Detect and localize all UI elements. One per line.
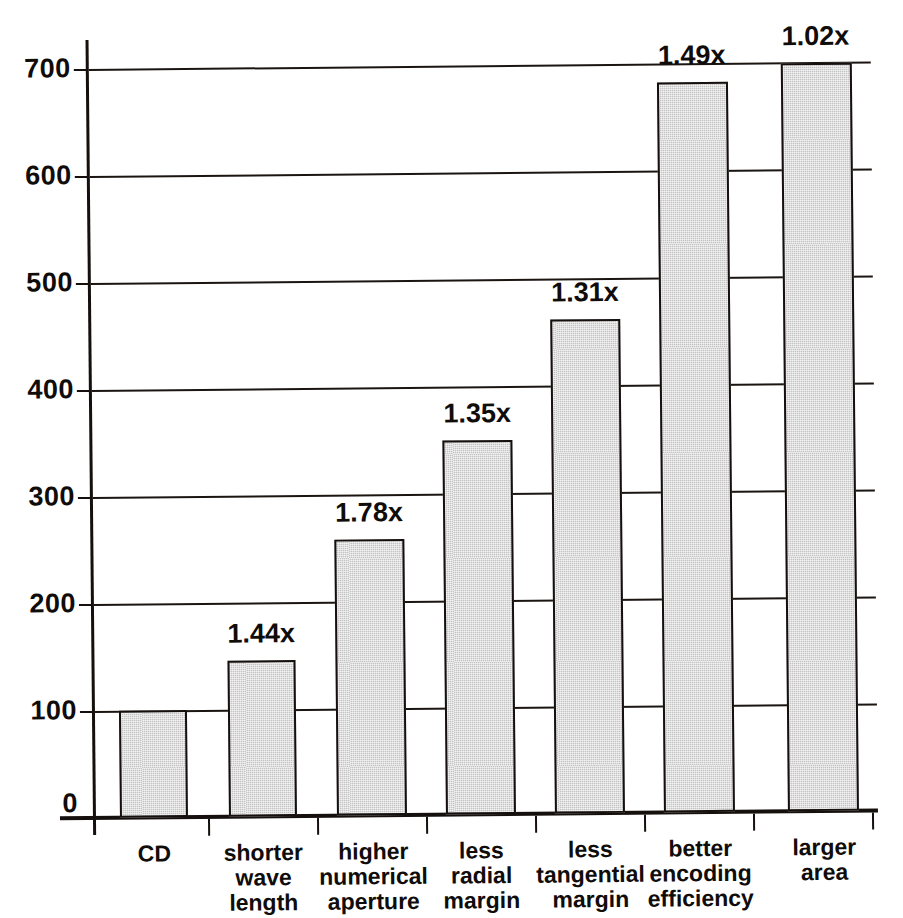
y-tick-400 — [77, 390, 91, 392]
bar-value-less-radial-margin: 1.35x — [408, 400, 546, 428]
plot-area: 700 600 500 400 300 200 100 0 1. — [0, 0, 903, 909]
x-axis-label-higher-numerical-aperture-line-2: numerical — [316, 864, 430, 890]
bar-less-radial-margin[interactable] — [442, 440, 516, 815]
y-axis-label-100: 100 — [3, 697, 77, 725]
gridline-600 — [90, 168, 872, 178]
y-axis-label-0: 0 — [4, 790, 78, 818]
x-axis-label-cd-line-1: CD — [104, 841, 204, 867]
x-axis-label-less-radial-margin: less radial margin — [433, 838, 530, 913]
x-tick-3 — [426, 817, 428, 834]
y-tick-300 — [78, 497, 92, 499]
x-tick-2 — [317, 818, 319, 835]
y-tick-200 — [79, 604, 93, 606]
y-tick-100 — [80, 711, 94, 713]
y-tick-600 — [75, 176, 89, 178]
x-axis-label-cd: CD — [104, 841, 204, 867]
x-tick-5 — [644, 815, 646, 832]
x-axis-label-less-radial-margin-line-3: margin — [434, 887, 530, 913]
x-axis-label-less-radial-margin-line-1: less — [433, 838, 529, 864]
x-axis-label-less-tangential-margin-line-1: less — [531, 837, 649, 863]
y-axis-label-400: 400 — [0, 376, 74, 404]
x-tick-1 — [208, 819, 210, 836]
x-axis-label-higher-numerical-aperture-line-3: aperture — [317, 888, 431, 914]
y-axis-label-600: 600 — [0, 162, 72, 190]
x-axis-label-better-encoding-efficiency-line-2: encoding — [645, 860, 755, 886]
bar-value-better-encoding-efficiency: 1.49x — [623, 42, 761, 70]
y-tick-500 — [76, 283, 90, 285]
x-axis-label-higher-numerical-aperture: higher numerical aperture — [316, 839, 431, 915]
x-axis-label-less-radial-margin-line-2: radial — [433, 863, 529, 889]
y-axis-label-300: 300 — [1, 483, 75, 511]
x-axis-label-better-encoding-efficiency: better encoding efficiency — [645, 836, 756, 912]
gridline-400 — [92, 382, 874, 392]
bar-better-encoding-efficiency[interactable] — [657, 82, 735, 813]
x-axis-label-shorter-wave-length-line-1: shorter — [213, 840, 313, 866]
bar-cd[interactable] — [119, 710, 188, 818]
x-axis-label-higher-numerical-aperture-line-1: higher — [316, 839, 430, 865]
bar-value-higher-numerical-aperture: 1.78x — [300, 499, 438, 527]
bar-value-larger-area: 1.02x — [746, 22, 884, 50]
x-axis-label-shorter-wave-length-line-2: wave — [213, 865, 313, 891]
bar-less-tangential-margin[interactable] — [550, 319, 625, 814]
y-tick-700 — [74, 69, 88, 71]
y-axis-line — [86, 40, 97, 835]
x-axis-label-less-tangential-margin-line-2: tangential — [531, 861, 649, 887]
x-axis-label-shorter-wave-length: shorter wave length — [213, 840, 314, 915]
y-axis-label-700: 700 — [0, 55, 71, 83]
x-tick-6 — [753, 814, 755, 831]
bar-shorter-wave-length[interactable] — [227, 660, 296, 817]
x-axis-label-shorter-wave-length-line-3: length — [214, 890, 314, 916]
gridline-500 — [91, 275, 873, 285]
bar-value-less-tangential-margin: 1.31x — [516, 279, 654, 307]
x-axis-label-less-tangential-margin: less tangential margin — [531, 837, 650, 913]
x-axis-label-less-tangential-margin-line-3: margin — [532, 886, 650, 912]
y-axis-label-200: 200 — [2, 590, 76, 618]
x-axis-label-larger-area-line-2: area — [772, 859, 876, 885]
x-tick-4 — [535, 816, 537, 833]
x-axis-label-better-encoding-efficiency-line-1: better — [645, 836, 755, 862]
x-axis-label-larger-area-line-1: larger — [772, 834, 876, 860]
x-axis-label-larger-area: larger area — [772, 834, 876, 885]
x-axis-label-better-encoding-efficiency-line-3: efficiency — [646, 885, 756, 911]
y-axis-label-500: 500 — [0, 269, 73, 297]
x-tick-7 — [872, 812, 874, 829]
bar-value-shorter-wave-length: 1.44x — [192, 620, 330, 648]
bar-higher-numerical-aperture[interactable] — [334, 539, 407, 816]
bar-larger-area[interactable] — [781, 63, 859, 812]
